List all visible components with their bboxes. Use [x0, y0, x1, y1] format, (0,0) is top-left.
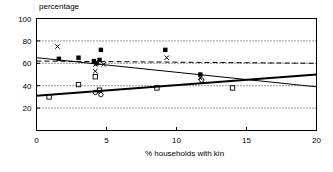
- scatter-plot-svg: 2040608010005101520: [0, 0, 333, 172]
- x-tick-label: 0: [34, 136, 39, 145]
- plot-frame: [37, 19, 317, 131]
- y-tick-label: 20: [23, 104, 32, 113]
- marker-filled-square: [99, 48, 103, 52]
- marker-open-square: [230, 86, 234, 90]
- x-axis-title: % households with kin: [0, 149, 333, 158]
- marker-open-square: [76, 82, 80, 86]
- marker-filled-square: [163, 48, 167, 52]
- x-tick-label: 5: [104, 136, 109, 145]
- marker-open-square: [93, 75, 97, 79]
- chart-container: percentage 2040608010005101520 % househo…: [0, 0, 333, 172]
- x-tick-label: 10: [172, 136, 181, 145]
- y-tick-label: 80: [23, 37, 32, 46]
- y-tick-label: 60: [23, 59, 32, 68]
- x-tick-label: 20: [312, 136, 321, 145]
- y-tick-label: 40: [23, 82, 32, 91]
- marker-filled-square: [76, 56, 80, 60]
- y-tick-label: 100: [18, 15, 32, 24]
- x-tick-label: 15: [242, 136, 251, 145]
- marker-open-circle: [99, 92, 103, 96]
- marker-filled-square: [57, 57, 61, 61]
- trend-line-solid-rising: [37, 75, 317, 96]
